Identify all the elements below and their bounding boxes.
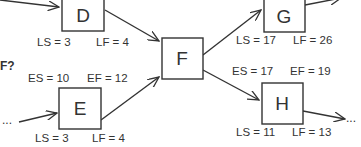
question-fragment: F? [0, 59, 15, 73]
network-diagram: D LS = 3 LF = 4 F? ES = 10 EF = 12 E ...… [0, 0, 361, 147]
node-e: ES = 10 EF = 12 E ... LS = 3 LF = 4 [2, 72, 128, 144]
edge-ellipsis-to-e [19, 113, 57, 122]
node-f-label: F [176, 48, 188, 69]
node-g-lf: LF = 26 [293, 34, 332, 46]
node-e-ls: LS = 3 [35, 132, 69, 144]
edge-f-to-g [203, 10, 261, 55]
node-h-label: H [275, 93, 289, 114]
ellipsis-left: ... [2, 113, 12, 127]
node-e-ef: EF = 12 [87, 72, 128, 84]
node-g-ls: LS = 17 [236, 34, 276, 46]
node-h-ef: EF = 19 [290, 65, 331, 77]
node-d-label: D [76, 5, 90, 26]
node-d: D LS = 3 LF = 4 [37, 0, 130, 48]
node-h-lf: LF = 13 [292, 126, 331, 138]
edge-g-out [305, 0, 341, 5]
node-d-lf: LF = 4 [96, 36, 130, 48]
edge-h-to-ellipsis [303, 111, 345, 119]
ellipsis-right: ... [346, 111, 356, 125]
edge-in-to-d [0, 0, 59, 7]
node-d-ls: LS = 3 [37, 36, 71, 48]
node-e-lf: LF = 4 [92, 132, 126, 144]
node-h-ls: LS = 11 [236, 126, 275, 138]
node-h-es: ES = 17 [232, 65, 273, 77]
node-g-label: G [277, 6, 292, 27]
node-g: G LS = 17 LF = 26 [236, 0, 332, 46]
node-e-label: E [74, 98, 87, 119]
node-h: ES = 17 EF = 19 H ... LS = 11 LF = 13 [232, 65, 356, 138]
node-e-es: ES = 10 [28, 72, 69, 84]
node-f: F [162, 38, 203, 79]
